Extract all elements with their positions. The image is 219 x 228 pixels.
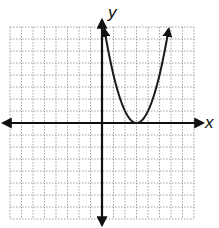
coordinate-plane-chart: x y	[0, 0, 219, 228]
x-axis-label: x	[204, 113, 214, 132]
y-axis-label: y	[107, 3, 118, 22]
